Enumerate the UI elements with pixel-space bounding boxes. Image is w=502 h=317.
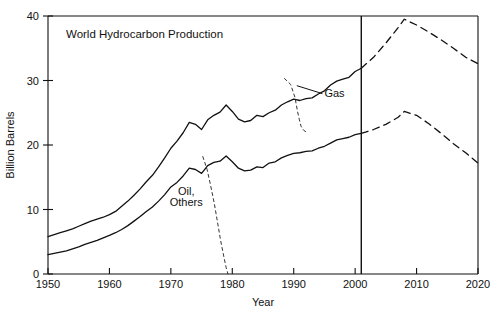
y-tick-label-20: 20: [27, 139, 39, 151]
chart-text-labels: 0102030401950196019701980199020002010202…: [4, 10, 490, 308]
chart-series-paths: [48, 19, 478, 274]
series-path-2: [361, 19, 478, 68]
annotation-leader-0: [297, 86, 323, 94]
y-tick-label-40: 40: [27, 10, 39, 22]
x-tick-label-2010: 2010: [404, 278, 428, 290]
x-tick-label-1990: 1990: [281, 278, 305, 290]
x-tick-label-1960: 1960: [97, 278, 121, 290]
chart-container: 0102030401950196019701980199020002010202…: [0, 0, 502, 317]
series-path-1: [48, 133, 361, 254]
annotation-others: Others: [170, 196, 204, 208]
y-axis-title: Billion Barrels: [4, 111, 16, 179]
x-tick-label-2000: 2000: [343, 278, 367, 290]
series-path-3: [361, 111, 478, 163]
chart-title: World Hydrocarbon Production: [66, 28, 223, 40]
y-tick-label-10: 10: [27, 204, 39, 216]
x-tick-label-1970: 1970: [159, 278, 183, 290]
x-axis-title: Year: [252, 296, 275, 308]
y-tick-label-30: 30: [27, 75, 39, 87]
series-path-0: [48, 68, 361, 236]
annotation-gas: Gas: [324, 87, 345, 99]
x-tick-label-1950: 1950: [36, 278, 60, 290]
series-path-4: [285, 79, 308, 133]
hydrocarbon-production-chart: 0102030401950196019701980199020002010202…: [0, 0, 502, 317]
series-path-5: [203, 157, 228, 274]
x-tick-label-1980: 1980: [220, 278, 244, 290]
x-tick-label-2020: 2020: [466, 278, 490, 290]
